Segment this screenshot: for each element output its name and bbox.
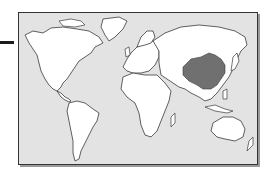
arctic-islands (59, 19, 85, 27)
indonesia (205, 105, 233, 113)
north-america (25, 27, 103, 91)
pointer-line (0, 41, 14, 44)
central-america (57, 91, 71, 102)
british-isles (125, 47, 130, 57)
world-map-svg (19, 13, 258, 165)
world-map (18, 12, 258, 165)
south-america (67, 101, 99, 161)
new-zealand (247, 137, 253, 151)
philippines (223, 89, 227, 99)
australia (211, 117, 245, 141)
madagascar (171, 113, 175, 127)
frame-shadow-bottom (20, 165, 260, 167)
greenland (101, 17, 127, 41)
frame-shadow-right (258, 14, 260, 166)
africa (121, 73, 171, 137)
